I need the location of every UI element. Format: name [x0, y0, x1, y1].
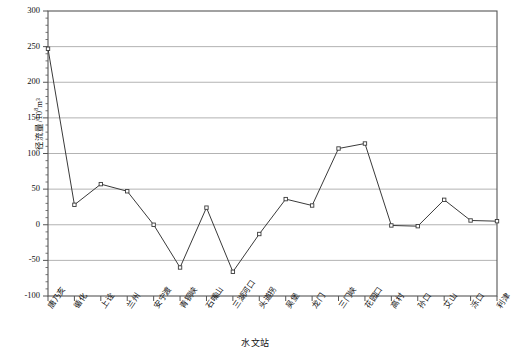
y-axis-tick-label: -100 [6, 291, 40, 300]
x-axis-title: 水文站 [0, 336, 511, 349]
y-axis-tick-label: 200 [6, 77, 40, 86]
runoff-line-chart: 径流量/108m³ 水文站 300250200150100500-50-100 … [0, 0, 511, 357]
gridlines [48, 11, 497, 296]
y-axis-tick-label: 300 [6, 6, 40, 15]
y-axis-tick-label: 150 [6, 113, 40, 122]
y-axis-title-tail: m³ [34, 98, 44, 108]
data-point-markers [46, 47, 498, 273]
y-axis-tick-label: 50 [6, 184, 40, 193]
y-axis-tick-label: 250 [6, 42, 40, 51]
y-axis-tick-label: 0 [6, 220, 40, 229]
y-axis-tick-label: 100 [6, 149, 40, 158]
y-axis-title-exponent: 8 [33, 108, 39, 111]
y-axis-tick-label: -50 [6, 255, 40, 264]
